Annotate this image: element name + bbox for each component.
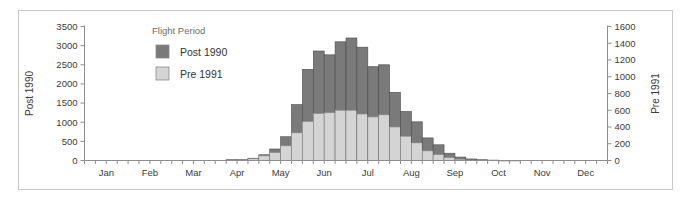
- bar-pre-1991: [259, 156, 270, 161]
- left-axis-tick-label: 3000: [56, 40, 77, 51]
- bottom-axis-month-label: Jan: [99, 167, 114, 178]
- bar-pre-1991: [379, 115, 390, 161]
- bottom-axis-month-label: Feb: [142, 167, 158, 178]
- bottom-axis-month-label: Mar: [185, 167, 201, 178]
- bottom-axis-month-label: May: [272, 167, 290, 178]
- right-axis-tick-label: 200: [615, 138, 631, 149]
- chart-plot-area: 0500100015002000250030003500Post 1990020…: [0, 0, 691, 203]
- bar-pre-1991: [390, 127, 401, 161]
- legend: Flight PeriodPost 1990Pre 1991: [152, 25, 227, 80]
- left-axis: 0500100015002000250030003500Post 1990: [24, 21, 85, 166]
- bottom-axis-month-label: Apr: [230, 167, 245, 178]
- right-axis-tick-label: 400: [615, 121, 631, 132]
- right-axis-tick-label: 1400: [615, 38, 636, 49]
- bar-pre-1991: [302, 122, 313, 161]
- left-axis-tick-label: 1000: [56, 117, 77, 128]
- bar-pre-1991: [346, 110, 357, 160]
- left-axis-tick-label: 0: [72, 155, 77, 166]
- right-axis: 02004006008001000120014001600Pre 1991: [608, 21, 662, 166]
- left-axis-tick-label: 500: [62, 136, 78, 147]
- left-axis-tick-label: 2000: [56, 78, 77, 89]
- bottom-axis-month-label: Dec: [577, 167, 594, 178]
- right-axis-tick-label: 600: [615, 105, 631, 116]
- left-axis-tick-label: 3500: [56, 21, 77, 32]
- bar-pre-1991: [411, 143, 422, 161]
- bars-group: [226, 38, 520, 161]
- bar-pre-1991: [433, 155, 444, 161]
- bottom-axis-month-label: Nov: [534, 167, 551, 178]
- bar-pre-1991: [368, 117, 379, 161]
- right-axis-tick-label: 0: [615, 155, 620, 166]
- right-axis-title: Pre 1991: [650, 73, 661, 114]
- bar-pre-1991: [270, 153, 281, 161]
- legend-label-pre-1991: Pre 1991: [180, 68, 223, 80]
- legend-swatch-pre-1991: [156, 67, 169, 80]
- figure-container: 0500100015002000250030003500Post 1990020…: [0, 0, 691, 203]
- bar-chart: 0500100015002000250030003500Post 1990020…: [0, 0, 691, 203]
- right-axis-tick-label: 1600: [615, 21, 636, 32]
- right-axis-tick-label: 1200: [615, 54, 636, 65]
- right-axis-tick-label: 1000: [615, 71, 636, 82]
- bar-pre-1991: [324, 113, 335, 161]
- legend-label-post-1990: Post 1990: [180, 46, 227, 58]
- bottom-axis-month-label: Jun: [317, 167, 332, 178]
- bottom-axis-month-label: Oct: [491, 167, 506, 178]
- bottom-axis-month-label: Sep: [447, 167, 464, 178]
- bottom-axis-month-label: Jul: [362, 167, 374, 178]
- bar-pre-1991: [422, 151, 433, 161]
- right-axis-tick-label: 800: [615, 88, 631, 99]
- left-axis-title: Post 1990: [24, 71, 35, 116]
- bar-pre-1991: [335, 110, 346, 160]
- bar-pre-1991: [400, 136, 411, 160]
- bar-pre-1991: [357, 114, 368, 160]
- legend-swatch-post-1990: [156, 45, 169, 58]
- bar-pre-1991: [292, 133, 303, 161]
- bar-pre-1991: [313, 114, 324, 161]
- bottom-axis-month-label: Aug: [403, 167, 420, 178]
- bar-pre-1991: [281, 146, 292, 161]
- legend-title: Flight Period: [152, 25, 205, 36]
- left-axis-tick-label: 2500: [56, 59, 77, 70]
- left-axis-tick-label: 1500: [56, 97, 77, 108]
- bottom-axis: JanFebMarAprMayJunJulAugSepOctNovDec: [85, 161, 608, 178]
